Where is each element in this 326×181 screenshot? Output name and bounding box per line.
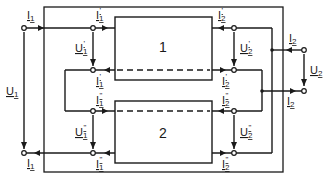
label-I2-top: I2 [289, 32, 297, 46]
label-U2p: U2' [240, 39, 253, 56]
arrow-I1p-mid [104, 67, 110, 73]
node-2-top-right [232, 109, 237, 114]
label-I2-bottom: I2 [287, 95, 295, 109]
label-I2p-mid: I2' [222, 72, 230, 89]
node-1-top-right [232, 26, 237, 31]
junction-top-right [270, 48, 274, 52]
label-U2: U2 [310, 64, 323, 78]
node-2-bottom-left [91, 151, 96, 156]
label-I1pp-bottom: I1" [96, 155, 104, 172]
node-1-top-left [91, 26, 96, 31]
label-I1-top: I1 [27, 9, 35, 23]
node-1-bottom-left [91, 68, 96, 73]
label-I2pp-bottom: I2" [222, 155, 230, 172]
terminal-left-top [22, 26, 27, 31]
junction-mid-right [260, 89, 264, 93]
terminal-right-bottom [302, 89, 307, 94]
node-2-bottom-right [232, 151, 237, 156]
label-U1p: U1' [75, 39, 88, 56]
arrow-I2pp-mid [218, 108, 224, 114]
node-1-bottom-right [232, 68, 237, 73]
arrow-I2-bottom [290, 88, 296, 94]
arrow-I1pp-bottom [104, 150, 110, 156]
arrow-U2 [301, 79, 307, 86]
label-I1p-mid: I1' [96, 72, 104, 89]
outer-frame [44, 7, 283, 172]
label-I1p-top: I1' [96, 6, 104, 23]
label-I1pp-mid: I1" [96, 91, 104, 108]
terminal-right-top [302, 48, 307, 53]
arrow-I2-top [286, 47, 292, 53]
label-U1pp: U1" [75, 123, 88, 140]
arrow-U2p [231, 59, 237, 66]
terminal-left-bottom [22, 151, 27, 156]
arrow-U1 [21, 142, 27, 149]
label-I1-bottom: I1 [27, 157, 35, 171]
node-2-top-left [91, 109, 96, 114]
label-U1: U1 [6, 85, 19, 99]
arrow-I1p-top [102, 25, 108, 31]
label-I2pp-mid: I2" [222, 91, 230, 108]
two-port-parallel-diagram: 1 2 I1 [0, 0, 326, 181]
block-1-label: 1 [159, 39, 167, 55]
label-I2p-top: I2' [218, 6, 226, 23]
block-2-label: 2 [159, 125, 167, 141]
arrow-I1-top [38, 25, 44, 31]
arrow-I1pp-mid [102, 108, 108, 114]
label-U2pp: U2" [240, 123, 253, 140]
arrow-U1p [90, 59, 96, 66]
arrow-U2pp [231, 142, 237, 149]
arrow-I1-bottom [34, 150, 40, 156]
arrow-U1pp [90, 142, 96, 149]
arrow-I2p-top [218, 25, 224, 31]
